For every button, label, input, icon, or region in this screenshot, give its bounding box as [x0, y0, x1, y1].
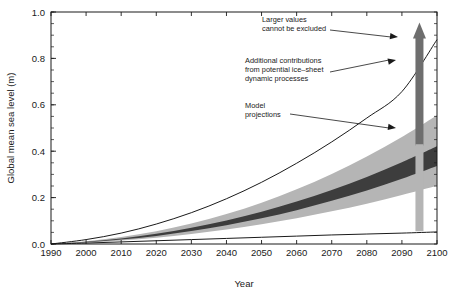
x-tick-label: 2080 [356, 247, 377, 258]
larger-values-annotation-leader [330, 30, 391, 37]
larger-values-annotation-line: Larger values [262, 15, 307, 24]
x-tick-label: 2060 [286, 247, 307, 258]
plot-bands [51, 115, 437, 244]
y-tick-label: 0.2 [32, 192, 45, 203]
sea-level-projection-figure: 1990200020102020203020402050206020702080… [0, 0, 451, 293]
y-tick-label: 1.0 [32, 7, 45, 18]
x-tick-label: 2010 [111, 247, 132, 258]
x-tick-label: 2020 [146, 247, 167, 258]
y-tick-label: 0.6 [32, 99, 45, 110]
larger-values-annotation-arrowhead [390, 33, 398, 39]
ice-sheet-annotation-line: dynamic processes [245, 74, 309, 83]
ice-sheet-annotation-line: Additional contributions [245, 56, 322, 65]
ice-sheet-annotation-leader [330, 60, 389, 72]
y-axis-title: Global mean sea level (m) [5, 73, 16, 184]
larger-values-annotation-line: cannot be excluded [262, 24, 326, 33]
chart-canvas: 1990200020102020203020402050206020702080… [0, 0, 451, 293]
ice-sheet-annotation: Additional contributionsfrom potential i… [245, 56, 396, 83]
y-tick-label: 0.4 [32, 146, 45, 157]
model-projections-annotation-line: Model [245, 101, 265, 110]
x-tick-label: 2090 [391, 247, 412, 258]
model-projections-bar [415, 144, 423, 231]
x-axis-title: Year [234, 278, 253, 289]
lower-bound-curve [51, 232, 437, 244]
x-tick-label: 2040 [216, 247, 237, 258]
x-tick-label: 2030 [181, 247, 202, 258]
ice-sheet-annotation-line: from potential ice–sheet [245, 65, 323, 74]
y-tick-label: 0.0 [32, 239, 45, 250]
ice-sheet-annotation-arrowhead [388, 58, 396, 64]
x-tick-label: 2050 [251, 247, 272, 258]
x-tick-label: 2000 [76, 247, 97, 258]
y-tick-label: 0.8 [32, 53, 45, 64]
x-tick-label: 2100 [426, 247, 447, 258]
x-tick-label: 2070 [321, 247, 342, 258]
model-projections-annotation-leader [290, 114, 389, 128]
model-projections-annotation-arrowhead [388, 124, 396, 130]
model-projections-annotation-line: projections [245, 110, 281, 119]
model-projections-annotation: Modelprojections [245, 101, 396, 130]
larger-values-annotation: Larger valuescannot be excluded [262, 15, 398, 39]
